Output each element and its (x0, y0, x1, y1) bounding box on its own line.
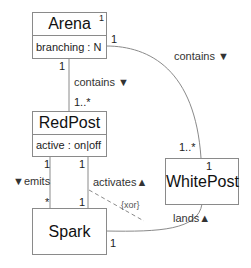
multiplicity: 1 (206, 160, 212, 172)
multiplicity: 1 (44, 158, 50, 170)
class-name: WhitePost (166, 159, 238, 204)
multiplicity: 1 (110, 237, 116, 249)
multiplicity: 1..* (179, 141, 196, 153)
multiplicity: 1..* (74, 96, 91, 108)
xor-constraint: {xor} (121, 200, 140, 210)
class-attribute: branching : N (33, 35, 106, 59)
class-redpost[interactable]: RedPost active : on|off (32, 111, 107, 157)
multiplicity: 1 (99, 13, 104, 23)
class-name: Arena (33, 13, 106, 35)
class-arena[interactable]: Arena branching : N (32, 12, 107, 59)
multiplicity: 1 (111, 33, 117, 45)
association-label: lands▲ (173, 212, 210, 224)
class-attribute: active : on|off (33, 134, 106, 157)
multiplicity: 1 (59, 60, 65, 72)
association-label: activates▲ (93, 176, 147, 188)
multiplicity: 1 (79, 196, 85, 208)
class-spark[interactable]: Spark (32, 208, 107, 255)
class-whitepost[interactable]: WhitePost (165, 158, 239, 205)
association-label: ▼emits (13, 175, 50, 187)
association-label: contains ▼ (174, 50, 229, 62)
association-label: contains ▼ (74, 76, 129, 88)
class-name: Spark (33, 209, 106, 254)
multiplicity: 1 (79, 158, 85, 170)
class-name: RedPost (33, 112, 106, 134)
multiplicity: * (45, 196, 49, 208)
